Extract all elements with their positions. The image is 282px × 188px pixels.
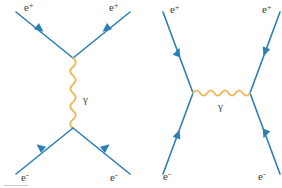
label-bottom-left-electron: e- — [21, 171, 29, 184]
fermion-line-top-left — [16, 12, 73, 58]
photon-propagator-vertical — [70, 58, 76, 128]
photon-propagator-horizontal — [193, 90, 250, 95]
label-top-left-positron: e+ — [24, 1, 34, 14]
label-photon-gamma: γ — [82, 93, 88, 105]
arrowhead-upper-right — [260, 46, 271, 57]
label-top-left-positron-2: e+ — [170, 3, 180, 16]
feynman-diagram-canvas: e+ e+ e- e- γ — [0, 0, 282, 188]
fermion-line-bottom-right — [73, 128, 130, 174]
fermion-line-bottom-left — [16, 128, 73, 174]
label-photon-gamma-2: γ — [217, 100, 223, 112]
fermion-line-top-right — [73, 12, 130, 58]
label-bottom-right-electron-2: e- — [258, 170, 266, 183]
label-top-right-positron: e+ — [109, 1, 119, 14]
label-bottom-left-electron-2: e- — [163, 170, 171, 183]
feynman-figure: e+ e+ e- e- γ — [0, 0, 282, 188]
scattering-diagram: e+ e+ e- e- γ — [163, 3, 280, 183]
arrowhead-lower-right — [260, 128, 271, 139]
annihilation-diagram: e+ e+ e- e- γ — [16, 1, 130, 184]
arrowhead-lower-left — [173, 128, 184, 139]
arrowhead-top-left — [34, 23, 46, 35]
arrowhead-upper-left — [173, 46, 184, 57]
arrowhead-top-right — [100, 23, 112, 35]
label-top-right-positron-2: e+ — [262, 3, 272, 16]
label-bottom-right-electron: e- — [110, 171, 118, 184]
